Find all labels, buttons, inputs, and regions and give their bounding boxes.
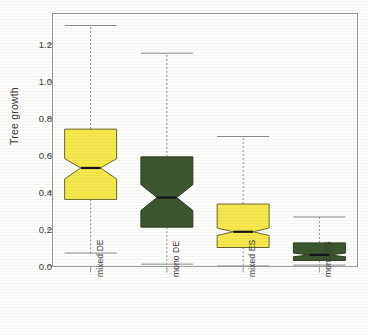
y-tick-label: 0.8 <box>26 113 52 124</box>
plot-canvas <box>0 0 368 335</box>
box-group <box>65 26 117 254</box>
x-tick-label: mixed DE <box>95 239 105 277</box>
y-axis-tick-labels: 0.00.20.40.60.81.01.2 <box>22 0 52 335</box>
y-axis-title: Tree growth <box>8 66 20 166</box>
box-group <box>217 137 269 267</box>
box-body <box>141 157 193 227</box>
y-tick-label: 0.2 <box>26 224 52 235</box>
y-tick-label: 0.4 <box>26 187 52 198</box>
y-tick-label: 1.2 <box>26 39 52 50</box>
box-body <box>65 129 117 199</box>
x-tick-label: mixed ES <box>247 239 257 276</box>
box-body <box>217 204 269 247</box>
x-axis-tick-marks <box>91 267 320 273</box>
y-tick-label: 1.0 <box>26 76 52 87</box>
boxplot-figure: Tree growth 0.00.20.40.60.81.01.2 mixed … <box>0 0 368 335</box>
x-tick-label: mono DE <box>171 240 181 276</box>
x-tick-label: mono ES <box>323 241 333 277</box>
box-series <box>65 26 346 267</box>
box-group <box>293 217 345 265</box>
box-group <box>141 53 193 264</box>
box-body <box>293 243 345 261</box>
y-tick-label: 0.6 <box>26 150 52 161</box>
y-tick-label: 0.0 <box>26 261 52 272</box>
